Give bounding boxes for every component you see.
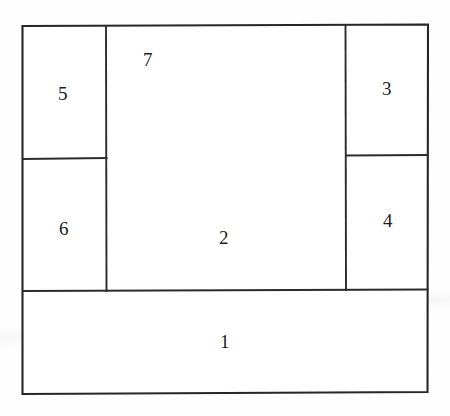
divider-right-horizontal — [346, 155, 428, 156]
region-label-6: 6 — [59, 218, 69, 240]
divider-left-horizontal — [23, 158, 107, 159]
region-label-5: 5 — [58, 83, 68, 105]
region-label-4: 4 — [383, 210, 393, 232]
divider-right-vertical — [346, 25, 347, 290]
region-label-2: 2 — [219, 227, 229, 249]
diagram-canvas: 5 7 3 6 2 4 1 — [0, 0, 450, 416]
partition-diagram-svg — [0, 0, 450, 416]
region-label-7: 7 — [143, 49, 153, 71]
region-label-1: 1 — [220, 331, 230, 353]
region-label-3: 3 — [382, 78, 392, 100]
